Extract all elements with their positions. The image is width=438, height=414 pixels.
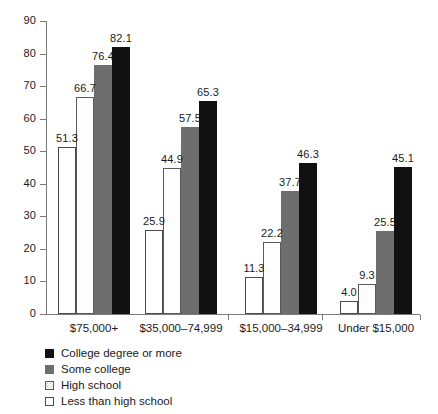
bar-less-than-high-school [145,230,163,314]
legend-item-label: Some college [61,363,131,375]
legend-item-label: High school [61,379,121,391]
legend-swatch-icon-black [45,349,54,358]
bar-college-degree-or-more [199,101,217,314]
bar-value-label: 9.3 [351,270,383,281]
bar-value-label: 11.3 [238,263,270,274]
bar-value-label: 37.7 [274,177,306,188]
bar-value-label: 76.4 [87,51,119,62]
bar-value-label: 65.3 [192,87,224,98]
y-axis-tick-value: 70 [6,80,36,91]
y-axis-tick-label: 50 [0,145,36,156]
y-axis-tick-label: 60 [0,113,36,124]
legend-item-high-school: High school [45,377,305,393]
bar-value-label: 82.1 [105,33,137,44]
x-axis-category-label: Under $15,000 [321,322,431,335]
bar-high-school [76,97,94,314]
y-axis-tick-label: 20 [0,243,36,254]
legend-item-college-degree-or-more: College degree or more [45,345,305,361]
bar-value-label: 46.3 [292,149,324,160]
chart-legend: College degree or more Some college High… [45,345,305,409]
bar-value-label: 4.0 [333,287,365,298]
bar-some-college [94,65,112,314]
bar-chart: 0102030405060708090 51.366.776.482.1$75,… [0,0,438,414]
bar-value-label: 25.9 [138,216,170,227]
bar-less-than-high-school [58,147,76,314]
y-axis-tick-value: 30 [6,210,36,221]
bar-value-label: 22.2 [256,228,288,239]
bar-high-school [263,242,281,314]
y-axis-tick-label: 40 [0,178,36,189]
y-axis-tick-label: 70 [0,80,36,91]
y-axis-tick-label: 80 [0,48,36,59]
y-axis-tick-value: 80 [6,48,36,59]
bar-value-label: 25.5 [369,217,401,228]
y-axis-tick-label: 90 [0,15,36,26]
legend-swatch-icon-white [45,397,54,406]
x-axis-line [46,314,420,315]
legend-swatch-icon-dotted [45,381,54,390]
bar-some-college [281,191,299,314]
x-axis-group-separator-tick [322,315,323,320]
y-axis-tick-value: 0 [6,308,36,319]
bar-college-degree-or-more [394,167,412,314]
legend-item-label: College degree or more [61,347,182,359]
bar-high-school [163,168,181,314]
legend-item-less-than-high-school: Less than high school [45,393,305,409]
legend-swatch-icon-gray [45,365,54,374]
x-axis-category-label: $15,000–34,999 [226,322,336,335]
x-axis-group-separator-tick [420,315,421,320]
bar-value-label: 57.5 [174,113,206,124]
bar-less-than-high-school [340,301,358,314]
bar-value-label: 45.1 [387,153,419,164]
x-axis-category-label: $35,000–74,999 [126,322,236,335]
bar-less-than-high-school [245,277,263,314]
y-axis-tick-value: 50 [6,145,36,156]
y-axis-tick-label: 30 [0,210,36,221]
y-axis-tick-label: 0 [0,308,36,319]
bar-value-label: 44.9 [156,154,188,165]
legend-item-some-college: Some college [45,361,305,377]
y-axis-tick-value: 20 [6,243,36,254]
y-axis-tick-value: 60 [6,113,36,124]
bar-college-degree-or-more [112,47,130,314]
y-axis-tick-value: 90 [6,15,36,26]
legend-item-label: Less than high school [61,395,172,407]
y-axis-tick-value: 10 [6,275,36,286]
y-axis-tick-value: 40 [6,178,36,189]
x-axis-group-separator-tick [228,315,229,320]
y-axis-tick-label: 10 [0,275,36,286]
bar-value-label: 66.7 [69,83,101,94]
bar-value-label: 51.3 [51,133,83,144]
